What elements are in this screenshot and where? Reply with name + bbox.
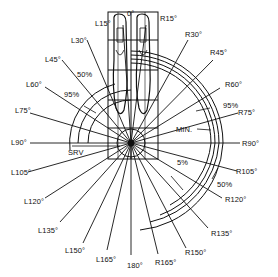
label-min: MIN. [176,126,192,134]
label-r45: R45° [210,49,227,57]
label-srv: SRV [68,149,84,157]
label-right-50pct: 50% [217,181,232,189]
label-l30: L30° [71,37,87,45]
label-l75: L75° [15,107,31,115]
label-r60: R60° [225,81,242,89]
label-l45: L45° [45,56,61,64]
label-l150: L150° [65,247,85,255]
label-l135: L135° [38,227,58,235]
label-left-50pct: 50% [77,71,92,79]
label-left-95pct: 95% [64,91,79,99]
label-r150: R150° [185,249,206,257]
label-r90: R90° [242,140,259,148]
label-right-95pct: 95% [223,102,238,110]
angle-diagram: 0° L15° L30° L45° L60° L75° L90° L105° L… [0,0,278,277]
label-180deg: 180° [127,262,143,270]
label-r135: R135° [211,230,232,238]
label-r15: R15° [160,15,177,23]
label-r30: R30° [185,31,202,39]
label-r165: R165° [155,259,176,267]
label-l120: L120° [24,198,44,206]
label-l105: L105° [11,169,31,177]
label-r120: R120° [225,196,246,204]
label-l15: L15° [95,20,111,28]
label-l90: L90° [11,139,27,147]
label-0deg: 0° [127,10,134,18]
diagram-graphic [0,0,278,277]
label-right-5pct: 5% [177,159,188,167]
label-l165: L165° [96,256,116,264]
label-r105: R105° [236,168,257,176]
label-l60: L60° [26,81,42,89]
label-r75: R75° [238,109,255,117]
